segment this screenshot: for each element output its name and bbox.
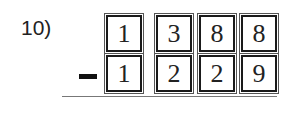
minus-sign-icon — [79, 74, 97, 79]
problem-number: 10) — [21, 16, 51, 40]
top-digit-box-1: 1 — [106, 15, 142, 52]
bottom-digit-box-2: 2 — [156, 55, 192, 92]
bottom-digit-box-1: 1 — [106, 55, 142, 92]
top-digit-box-3: 8 — [199, 15, 235, 52]
top-digit-box-4: 8 — [241, 15, 277, 52]
top-digit-box-2: 3 — [156, 15, 192, 52]
bottom-digit-box-4: 9 — [241, 55, 277, 92]
bottom-digit-box-3: 2 — [199, 55, 235, 92]
answer-rule-line — [62, 96, 277, 97]
